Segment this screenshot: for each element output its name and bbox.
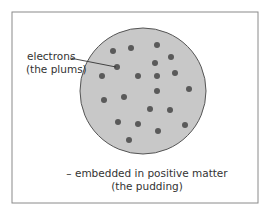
electron-dot — [110, 48, 116, 54]
electron-dot — [121, 94, 127, 100]
electron-dot — [101, 97, 107, 103]
electron-dot — [154, 42, 160, 48]
electrons-label: electrons — [27, 50, 75, 62]
electron-dot — [152, 60, 158, 66]
matter-sublabel: (the pudding) — [111, 180, 183, 192]
electron-dot — [155, 128, 161, 134]
electron-dot — [182, 122, 188, 128]
electron-dot — [115, 119, 121, 125]
electron-dot — [126, 137, 132, 143]
electron-dot — [154, 88, 160, 94]
electron-dot — [186, 86, 192, 92]
electron-dot — [147, 106, 153, 112]
electron-dot — [172, 70, 178, 76]
electron-dot — [168, 54, 174, 60]
electron-dot — [128, 45, 134, 51]
electron-dot — [167, 107, 173, 113]
electron-dot — [99, 73, 105, 79]
matter-label: – embedded in positive matter — [66, 167, 228, 179]
electrons-sublabel: (the plums) — [26, 63, 87, 75]
electron-dot — [154, 73, 160, 79]
plum-pudding-diagram: electrons (the plums) – embedded in posi… — [0, 0, 268, 208]
electron-dot — [135, 73, 141, 79]
electron-dot — [135, 121, 141, 127]
